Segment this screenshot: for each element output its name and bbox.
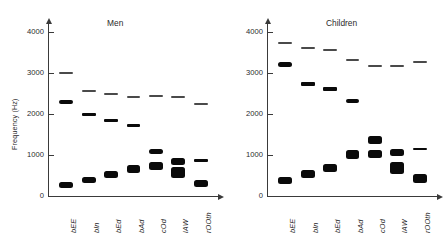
formant-bar-f2-cod xyxy=(368,136,382,143)
formant-bar-f1-bad xyxy=(346,150,360,159)
formant-bar-f3-cod xyxy=(149,95,163,97)
x-axis-line xyxy=(48,196,218,197)
formant-bar-f3-law xyxy=(171,96,185,98)
formant-bar-f3-bin xyxy=(82,90,96,92)
y-tick-mark xyxy=(49,73,54,74)
y-axis-arrow xyxy=(46,18,52,24)
x-axis-label-bed: bEd xyxy=(333,220,342,233)
y-tick-mark xyxy=(268,114,273,115)
y-tick-mark xyxy=(268,73,273,74)
formant-bar-f2-bad xyxy=(127,124,141,128)
formant-bar-f1-bed xyxy=(104,171,118,178)
formant-bar-f1-law xyxy=(171,167,185,178)
x-axis-label-bed: bEd xyxy=(114,220,123,233)
y-tick-mark xyxy=(268,155,273,156)
formant-bar-f3-bin xyxy=(301,47,315,49)
x-axis-label-bin: bIn xyxy=(92,222,101,233)
x-axis-label-bad: bAd xyxy=(137,220,146,233)
x-axis-label-bad: bAd xyxy=(356,220,365,233)
y-tick-mark xyxy=(49,114,54,115)
formant-bar-f1-bee xyxy=(278,177,292,184)
formant-bar-f2-bee xyxy=(278,62,292,67)
formant-bar-f3-law xyxy=(390,65,404,67)
formant-bar-f3-cod xyxy=(368,65,382,67)
y-tick-label-4000: 4000 xyxy=(14,27,44,36)
formant-bar-f2-rooth xyxy=(413,148,427,150)
y-tick-mark xyxy=(268,32,273,33)
formant-bar-f1-law xyxy=(390,162,404,173)
formant-bar-f2-bed xyxy=(323,87,337,91)
y-tick-mark xyxy=(49,155,54,156)
formant-bar-f3-bee xyxy=(278,42,292,44)
formant-bar-f1-bed xyxy=(323,164,337,172)
formant-bar-f1-bin xyxy=(301,170,315,178)
x-axis-label-bee: bEE xyxy=(288,219,297,233)
formant-bar-f2-bed xyxy=(104,119,118,122)
x-axis-label-law: lAW xyxy=(181,219,190,233)
formant-bar-f1-bee xyxy=(59,182,73,188)
panel-title-children: Children xyxy=(326,18,357,28)
formant-bar-f1-cod xyxy=(368,150,382,158)
formant-bar-f2-law xyxy=(390,149,404,156)
formant-bar-f2-bad xyxy=(346,99,360,104)
y-tick-label-2000: 2000 xyxy=(233,109,263,118)
y-tick-mark xyxy=(49,32,54,33)
y-axis-line xyxy=(48,24,49,196)
y-tick-label-3000: 3000 xyxy=(14,68,44,77)
formant-bar-f1-rooth xyxy=(194,180,208,187)
x-axis-label-law: lAW xyxy=(400,219,409,233)
panel-title-men: Men xyxy=(107,18,123,28)
formant-bar-f3-bee xyxy=(59,72,73,74)
y-axis-title: Frequency (Hz) xyxy=(10,98,19,150)
formant-bar-f1-rooth xyxy=(413,174,427,183)
chart-panel-children: 01000200030004000ChildrenbEEbInbEdbAdcOd… xyxy=(219,0,441,236)
formant-bar-f2-cod xyxy=(149,149,163,154)
formant-bar-f2-bee xyxy=(59,100,73,105)
x-axis-label-bin: bIn xyxy=(311,222,320,233)
y-axis-line xyxy=(267,24,268,196)
x-axis-line xyxy=(267,196,437,197)
formant-bar-f3-rooth xyxy=(194,103,208,105)
x-axis-label-rooth: rOOth xyxy=(423,212,432,233)
y-tick-label-1000: 1000 xyxy=(233,150,263,159)
formant-bar-f3-bed xyxy=(323,49,337,51)
formant-bar-f3-bed xyxy=(104,93,118,95)
x-axis-label-bee: bEE xyxy=(69,219,78,233)
y-tick-label-1000: 1000 xyxy=(14,150,44,159)
y-tick-label-0: 0 xyxy=(233,191,263,200)
formant-bar-f2-law xyxy=(171,158,185,164)
formant-bar-f1-bad xyxy=(127,165,141,172)
x-axis-label-rooth: rOOth xyxy=(204,212,213,233)
x-axis-label-cod: cOd xyxy=(159,219,168,233)
formant-bar-f3-rooth xyxy=(413,61,427,63)
x-axis-arrow xyxy=(437,194,443,200)
formant-bar-f2-bin xyxy=(301,82,315,86)
y-tick-label-3000: 3000 xyxy=(233,68,263,77)
formant-bar-f1-cod xyxy=(149,162,163,170)
y-tick-label-0: 0 xyxy=(14,191,44,200)
formant-bar-f3-bad xyxy=(346,59,360,61)
x-axis-label-cod: cOd xyxy=(378,219,387,233)
formant-bar-f3-bad xyxy=(127,96,141,98)
formant-bar-f2-bin xyxy=(82,113,96,117)
formant-bar-f1-bin xyxy=(82,177,96,184)
y-tick-label-4000: 4000 xyxy=(233,27,263,36)
y-axis-arrow xyxy=(265,18,271,24)
formant-bar-f2-rooth xyxy=(194,159,208,161)
